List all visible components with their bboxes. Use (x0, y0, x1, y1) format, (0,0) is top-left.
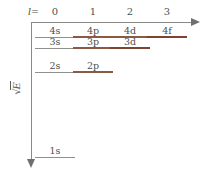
energy-level-label: 4f (147, 26, 187, 36)
energy-level-1s: 1s (35, 146, 75, 158)
energy-level-label: 4p (73, 26, 113, 36)
energy-level-3d: 3d (110, 37, 150, 49)
energy-level-label: 4d (110, 26, 150, 36)
energy-level-3s: 3s (35, 37, 75, 49)
energy-level-line (110, 47, 150, 50)
energy-level-label: 2p (73, 61, 113, 71)
x-tick-label: 0 (45, 6, 65, 17)
x-axis-label-equals: = (31, 6, 39, 17)
orbital-energy-diagram: √E l= 0123 4s4p4d4f3s3p3d2s2p1s (0, 0, 213, 182)
right-arrow-icon (191, 18, 200, 26)
energy-level-3p: 3p (73, 37, 113, 49)
x-tick-label: 1 (83, 6, 103, 17)
x-tick-label: 2 (120, 6, 140, 17)
energy-level-line (147, 36, 187, 39)
energy-level-2p: 2p (73, 61, 113, 73)
energy-level-line (35, 72, 75, 73)
x-tick-label: 3 (157, 6, 177, 17)
energy-level-2s: 2s (35, 61, 75, 73)
energy-level-label: 3s (35, 37, 75, 47)
energy-level-label: 2s (35, 61, 75, 71)
y-axis-label: √E (10, 68, 22, 108)
x-axis-label: l= (28, 6, 39, 17)
energy-level-label: 1s (35, 146, 75, 156)
y-axis-label-inner: E (10, 81, 22, 90)
x-axis-line (31, 22, 193, 23)
energy-level-line (35, 48, 75, 49)
energy-level-4f: 4f (147, 26, 187, 38)
energy-level-label: 4s (35, 26, 75, 36)
energy-level-line (73, 71, 113, 73)
energy-level-label: 3d (110, 37, 150, 47)
energy-level-line (73, 47, 113, 49)
energy-level-label: 3p (73, 37, 113, 47)
y-axis-line (31, 22, 32, 162)
down-arrow-icon (27, 159, 35, 168)
energy-level-line (35, 157, 75, 158)
